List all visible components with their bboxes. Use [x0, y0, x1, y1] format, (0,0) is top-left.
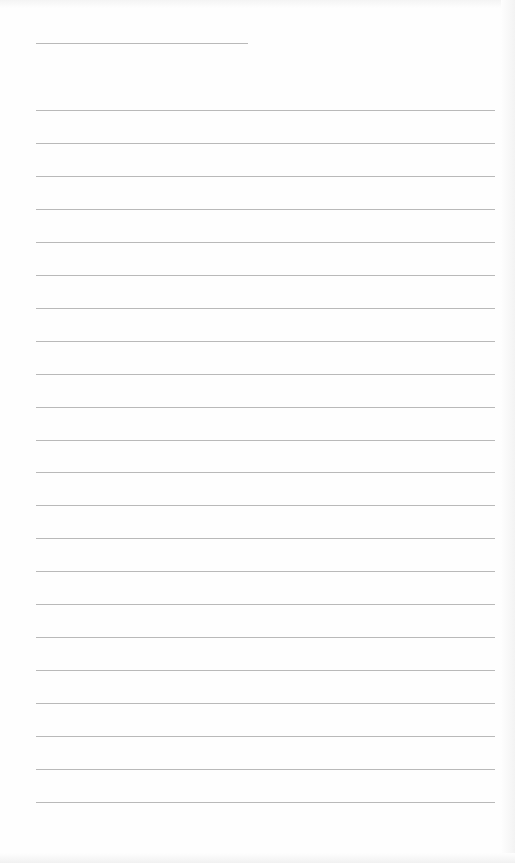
ruled-line: [36, 407, 495, 408]
ruled-line: [36, 308, 495, 309]
ruled-line: [36, 440, 495, 441]
ruled-line: [36, 110, 495, 111]
bottom-edge-shading: [0, 853, 515, 863]
ruled-line: [36, 571, 495, 572]
ruled-line: [36, 275, 495, 276]
ruled-line: [36, 670, 495, 671]
ruled-line: [36, 472, 495, 473]
ruled-line: [36, 604, 495, 605]
top-edge-shading: [0, 0, 515, 8]
ruled-line: [36, 538, 495, 539]
ruled-line: [36, 374, 495, 375]
ruled-line: [36, 802, 495, 803]
ruled-line: [36, 176, 495, 177]
ruled-line: [36, 736, 495, 737]
header-title-line: [36, 43, 248, 44]
ruled-line: [36, 242, 495, 243]
ruled-line: [36, 341, 495, 342]
lined-paper-page: [0, 0, 515, 863]
right-edge-shading: [501, 0, 515, 863]
ruled-line: [36, 637, 495, 638]
ruled-line: [36, 703, 495, 704]
ruled-line: [36, 209, 495, 210]
ruled-line: [36, 769, 495, 770]
ruled-line: [36, 143, 495, 144]
ruled-line: [36, 505, 495, 506]
